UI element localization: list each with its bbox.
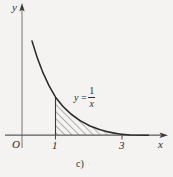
y-axis-label: y bbox=[12, 2, 17, 13]
x-tick-label-3: 3 bbox=[119, 140, 125, 151]
fraction-numerator: 1 bbox=[88, 86, 95, 96]
x-tick-label-1: 1 bbox=[52, 140, 58, 151]
figure-caption: c) bbox=[76, 159, 84, 169]
x-tick-marks bbox=[56, 135, 123, 139]
equation-fraction: 1 x bbox=[88, 86, 95, 109]
y-axis bbox=[19, 3, 24, 148]
equation-equals-sign: = bbox=[80, 93, 87, 103]
origin-label: O bbox=[12, 139, 20, 150]
x-axis-label: x bbox=[158, 139, 163, 150]
fraction-denominator: x bbox=[88, 99, 94, 109]
equation-left-side: y bbox=[74, 93, 78, 103]
figure-container: y x O 1 3 y = 1 x c) bbox=[0, 0, 173, 177]
curve-equation-label: y = 1 x bbox=[74, 86, 95, 109]
